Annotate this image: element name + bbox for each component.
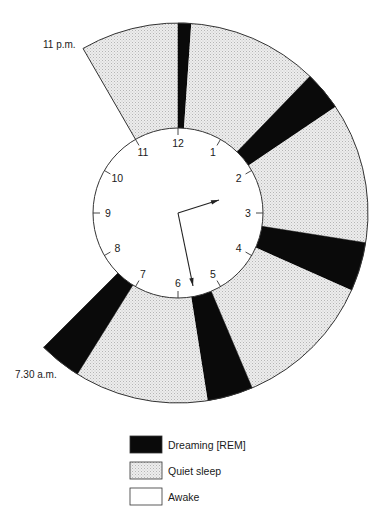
legend-item-awake: Awake — [130, 488, 199, 505]
legend-label-rem: Dreaming [REM] — [168, 439, 246, 451]
start-time-label: 11 p.m. — [43, 39, 76, 50]
clock-number: 5 — [210, 268, 216, 280]
clock-number: 4 — [236, 242, 242, 254]
legend-swatch-awake — [130, 488, 162, 505]
clock-number: 2 — [236, 172, 242, 184]
clock-number: 6 — [175, 277, 181, 289]
legend-item-rem: Dreaming [REM] — [130, 436, 246, 453]
clock-number: 10 — [112, 172, 124, 184]
sleep-cycle-diagram: 121234567891011 11 p.m. 7.30 a.m. Dreami… — [0, 0, 380, 523]
clock-number: 1 — [210, 146, 216, 158]
clock-number: 7 — [140, 268, 146, 280]
clock-number: 11 — [138, 146, 149, 158]
legend-swatch-rem — [130, 436, 162, 453]
clock-number: 9 — [105, 207, 111, 219]
clock-number: 12 — [172, 137, 184, 149]
clock-number: 3 — [245, 207, 251, 219]
legend-label-quiet: Quiet sleep — [168, 465, 221, 477]
legend-swatch-quiet — [130, 462, 162, 479]
clock-number: 8 — [114, 242, 120, 254]
legend-item-quiet: Quiet sleep — [130, 462, 221, 479]
legend-label-awake: Awake — [168, 491, 199, 503]
legend: Dreaming [REM] Quiet sleep Awake — [130, 436, 246, 505]
end-time-label: 7.30 a.m. — [15, 369, 57, 380]
